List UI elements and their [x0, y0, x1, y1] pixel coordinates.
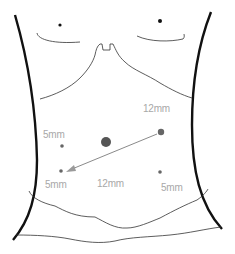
label-12mm-center: 12mm	[97, 179, 124, 189]
arrow-head-icon	[66, 165, 76, 172]
port-umbilical	[101, 137, 111, 147]
port-left-lower-5mm	[59, 169, 63, 173]
port-right-upper-12mm	[158, 129, 164, 135]
nipple-left-icon	[58, 23, 61, 26]
abdomen-diagram	[0, 0, 235, 254]
lower-abdomen-line	[29, 189, 208, 228]
torso-right-outline	[192, 12, 222, 229]
port-right-lower-5mm	[158, 170, 162, 174]
nipple-right-icon	[158, 19, 162, 23]
label-5mm-upper-left: 5mm	[43, 130, 65, 140]
label-12mm-upper-right: 12mm	[143, 104, 170, 114]
port-left-upper-5mm	[60, 144, 64, 148]
groin-line	[16, 227, 221, 242]
pectoral-left-line	[37, 33, 80, 43]
costal-margin-line	[40, 44, 192, 99]
arrow-line	[72, 134, 157, 169]
label-5mm-lower-right: 5mm	[161, 183, 183, 193]
pectoral-right-line	[137, 34, 184, 41]
torso-left-outline	[13, 15, 37, 240]
label-5mm-lower-left: 5mm	[45, 180, 67, 190]
